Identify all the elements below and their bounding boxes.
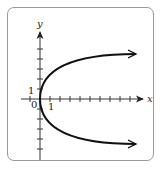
x-axis-label: x [147,93,153,104]
parabola-graph: y x 0 1 1 [0,0,161,170]
y-unit-label: 1 [28,85,34,96]
origin-label: 0 [31,99,37,110]
parabola-curve-lower [40,99,136,144]
x-unit-label: 1 [48,101,54,112]
y-axis-label: y [36,18,43,29]
parabola-curve [40,54,136,99]
